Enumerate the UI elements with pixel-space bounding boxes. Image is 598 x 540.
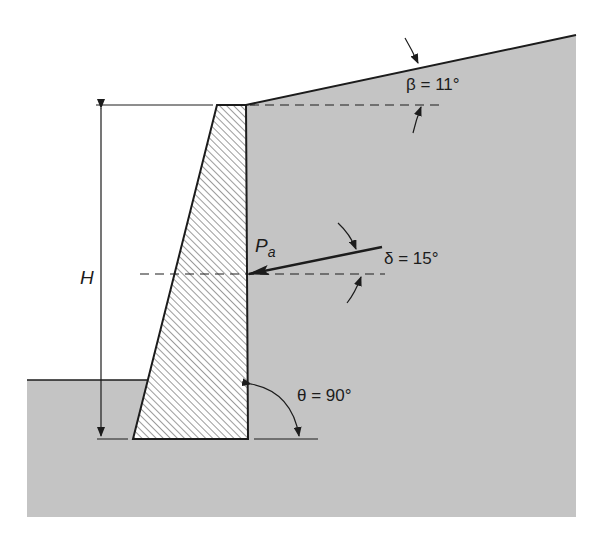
active-force-symbol: P	[255, 235, 268, 256]
theta-angle-label: θ = 90°	[297, 386, 352, 405]
beta-arrow-upper	[405, 38, 418, 63]
active-force-subscript: a	[268, 244, 276, 260]
retaining-wall	[133, 105, 248, 439]
height-label: H	[80, 267, 94, 288]
beta-angle-label: β = 11°	[406, 75, 460, 94]
delta-angle-label: δ = 15°	[384, 249, 439, 268]
backfill-soil	[246, 35, 576, 517]
retaining-wall-diagram: H β = 11° Pa δ = 15° θ = 90°	[0, 0, 598, 540]
